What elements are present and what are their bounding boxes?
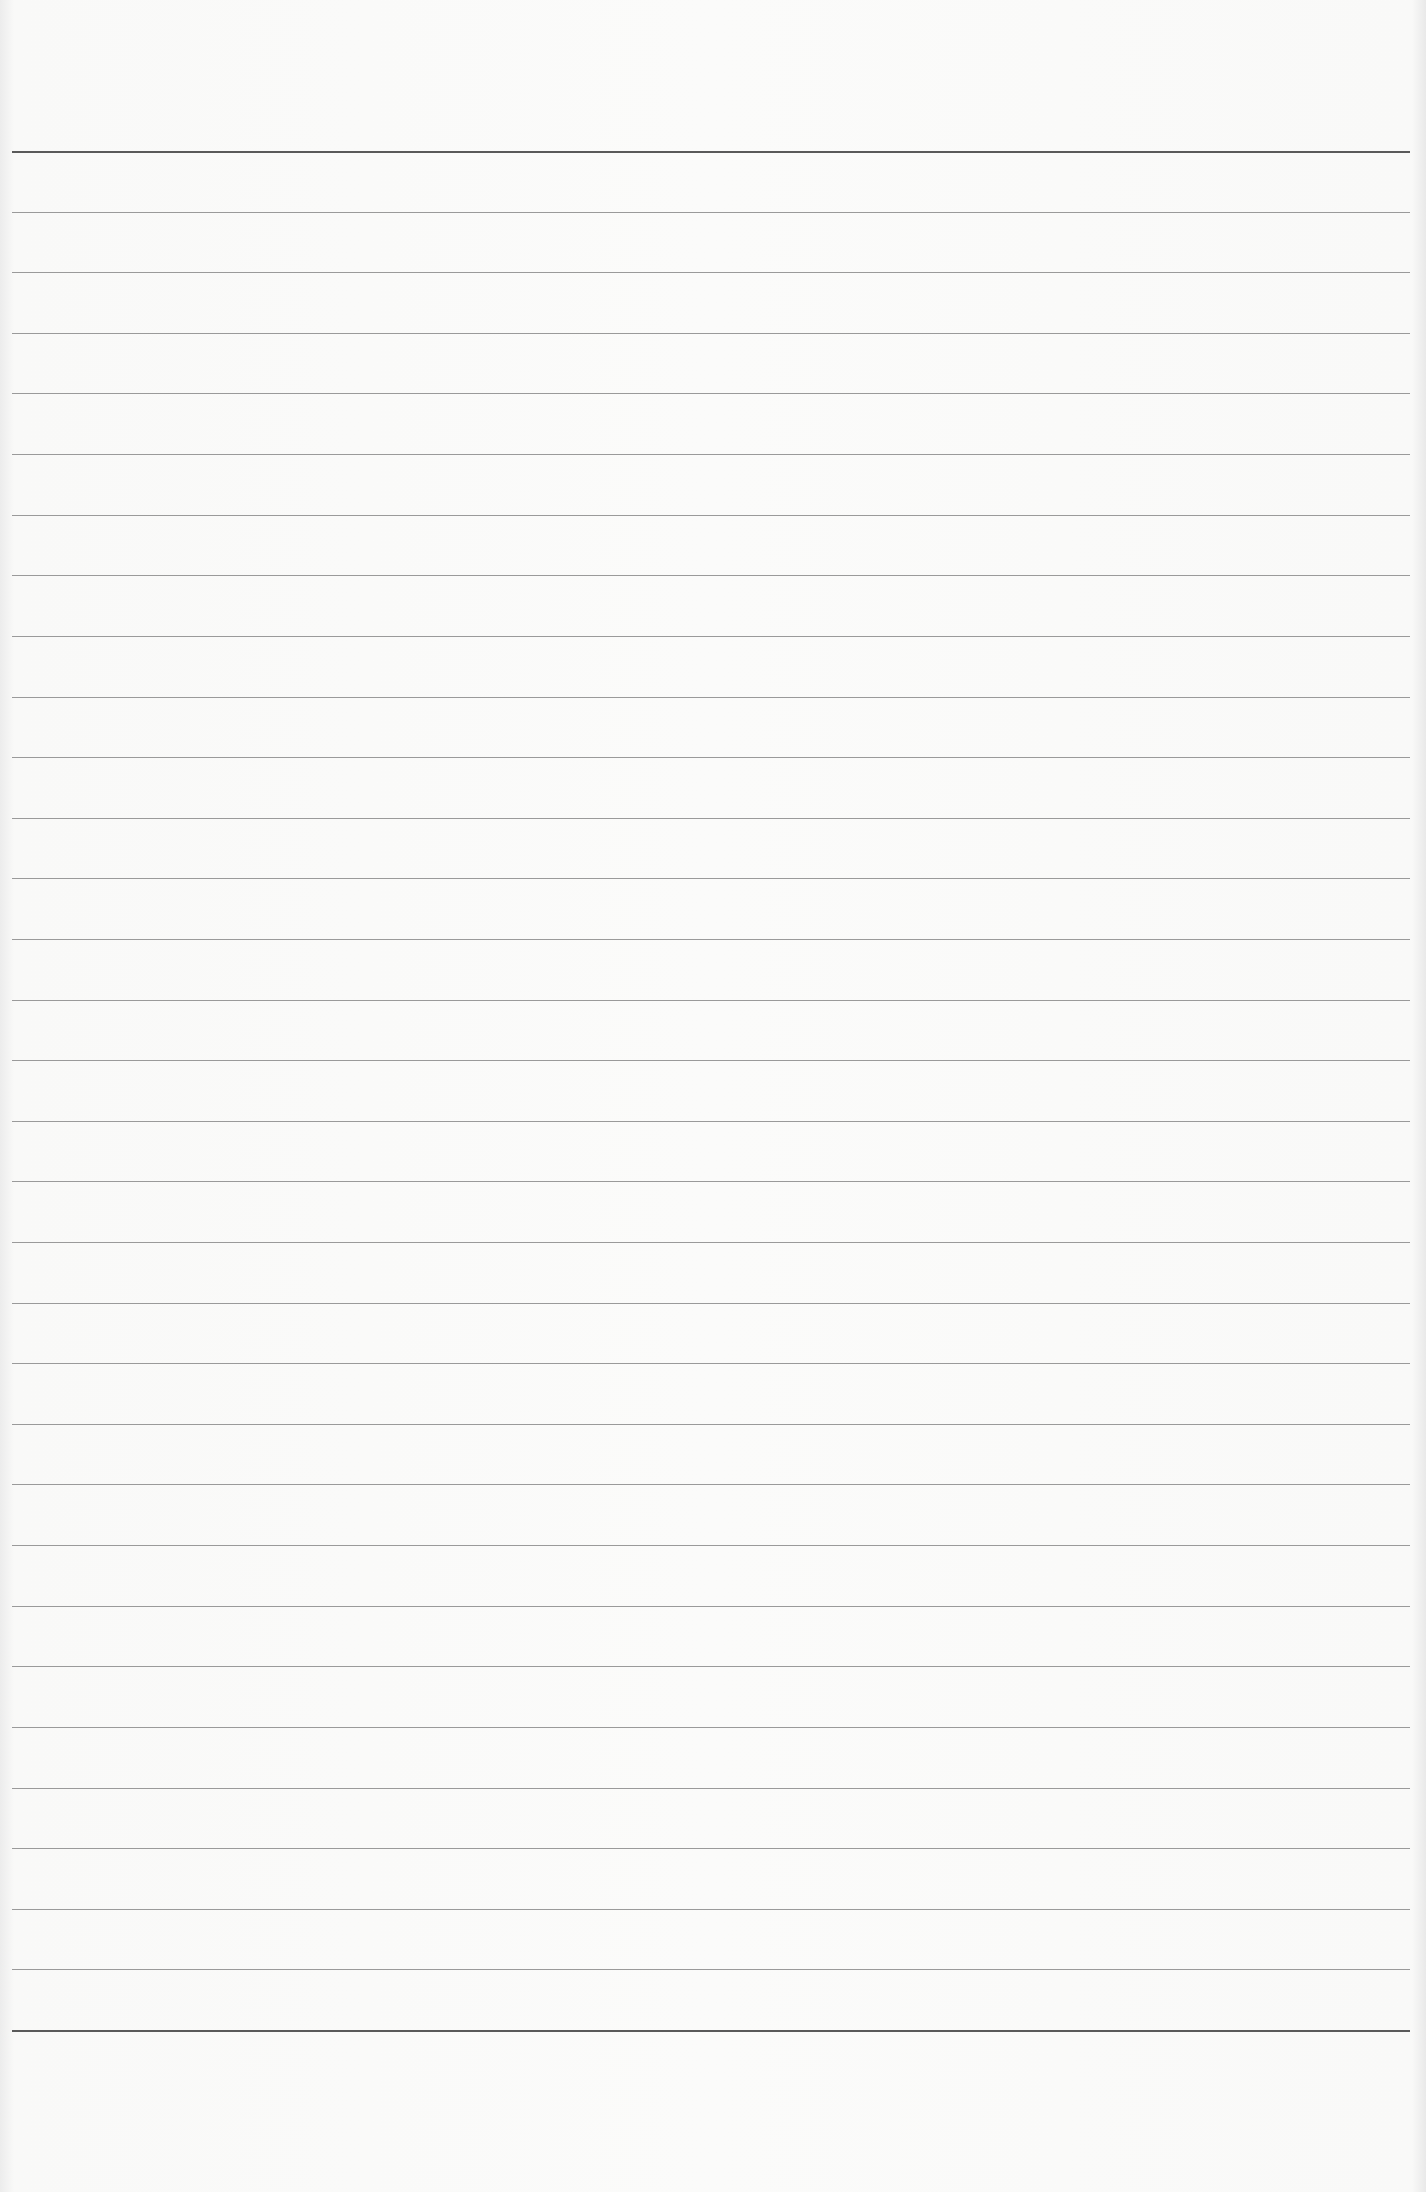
rule-line [12, 1909, 1410, 1910]
rule-line [12, 1181, 1410, 1182]
rule-line [12, 575, 1410, 576]
ruled-paper-page [0, 0, 1426, 2192]
bottom-rule-line [12, 2030, 1410, 2032]
rule-line [12, 1848, 1410, 1849]
rule-line [12, 212, 1410, 213]
rule-line [12, 1666, 1410, 1667]
rule-line [12, 1545, 1410, 1546]
rule-line [12, 454, 1410, 455]
rule-line [12, 818, 1410, 819]
rule-line [12, 1424, 1410, 1425]
rule-line [12, 636, 1410, 637]
rule-line [12, 1606, 1410, 1607]
rule-line [12, 1363, 1410, 1364]
rule-line [12, 939, 1410, 940]
rule-line [12, 393, 1410, 394]
rule-line [12, 1969, 1410, 1970]
rule-line [12, 1242, 1410, 1243]
top-rule-line [12, 151, 1410, 153]
rule-line [12, 1121, 1410, 1122]
rule-line [12, 1303, 1410, 1304]
rule-line [12, 1788, 1410, 1789]
rule-line [12, 1484, 1410, 1485]
rule-line [12, 1727, 1410, 1728]
rule-line [12, 272, 1410, 273]
rule-line [12, 333, 1410, 334]
rule-line [12, 878, 1410, 879]
rule-line [12, 1060, 1410, 1061]
rule-line [12, 757, 1410, 758]
rule-line [12, 697, 1410, 698]
rule-line [12, 1000, 1410, 1001]
rule-line [12, 515, 1410, 516]
